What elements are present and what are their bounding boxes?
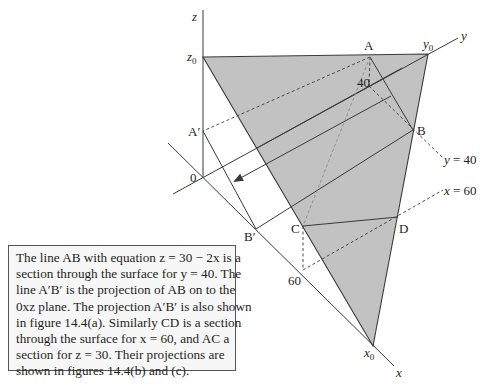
section-label-y40: y = 40 <box>442 152 477 167</box>
point-a-label: A <box>364 38 374 53</box>
point-d-label: D <box>399 221 408 236</box>
point-b-prime-label: B′ <box>244 229 256 244</box>
origin-label: 0 <box>190 170 197 185</box>
caption-line: section through the surface for y = 40. … <box>16 266 229 282</box>
caption-line: The line AB with equation z = 30 − 2x is… <box>16 250 229 266</box>
caption-line: section for z = 30. Their projections ar… <box>16 347 229 363</box>
caption-line: shown in figures 14.4(b) and (c). <box>16 363 229 379</box>
point-b-label: B <box>417 123 426 138</box>
x0-label: x0 <box>363 345 375 362</box>
point-c-label: C <box>291 221 300 236</box>
caption-line: in figure 14.4(a). Similarly CD is a sec… <box>16 315 229 331</box>
caption-line: 0xz plane. The projection A′B′ is also s… <box>16 299 229 315</box>
y0-label: y0 <box>421 36 434 53</box>
section-label-x60: x = 60 <box>443 183 477 198</box>
z0-label: z0 <box>186 49 197 66</box>
tick-40-label: 40 <box>357 75 370 90</box>
caption-box: The line AB with equation z = 30 − 2x is… <box>8 245 236 371</box>
z-axis-label: z <box>191 9 197 24</box>
x-axis-label: x <box>395 365 402 380</box>
point-a-prime-label: A′ <box>188 124 200 139</box>
y-axis-label: y <box>459 28 467 43</box>
caption-line: line A′B′ is the projection of AB on to … <box>16 282 229 298</box>
tick-60-label: 60 <box>288 273 301 288</box>
caption-line: through the surface for x = 60, and AC a <box>16 331 229 347</box>
projection-line-a-prime-b-prime <box>203 131 256 229</box>
